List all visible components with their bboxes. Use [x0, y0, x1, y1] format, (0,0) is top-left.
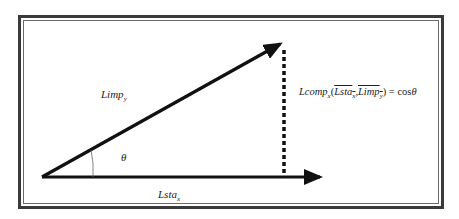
- limp-vector-arrow: [42, 44, 280, 177]
- limp-label: Limpy: [101, 88, 127, 103]
- angle-arc: [91, 150, 93, 177]
- cosine-formula: Lcompx(Lstax,Limpy) = cosθ: [299, 86, 417, 100]
- vector-diagram: [0, 0, 459, 219]
- theta-label: θ: [121, 151, 126, 163]
- lsta-label: Lstax: [158, 188, 180, 203]
